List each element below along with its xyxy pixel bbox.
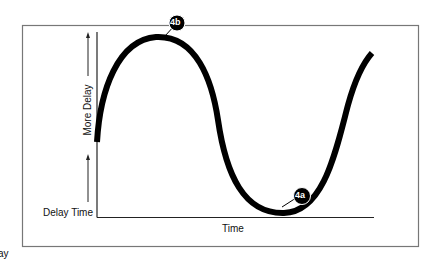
up-arrow-icon [86, 154, 90, 202]
up-arrow-icon [86, 32, 90, 76]
delay-curve [97, 37, 372, 213]
y-axis-baseline-label: Delay Time [43, 207, 93, 218]
badge-4b-label: 4b [170, 17, 181, 27]
badge-4a-label: 4a [295, 190, 305, 200]
y-axis-label: More Delay [82, 84, 93, 135]
clipped-text-fragment: ay [0, 248, 9, 259]
x-axis-label: Time [222, 223, 244, 234]
